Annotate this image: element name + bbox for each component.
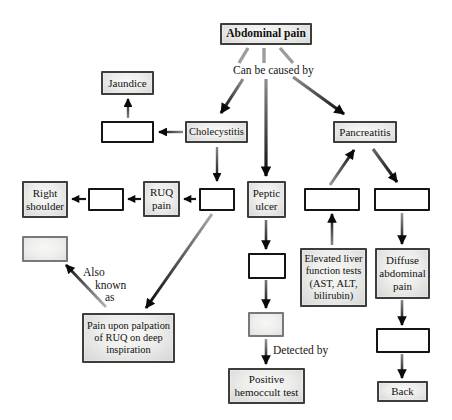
node-cholecystitis: Cholecystitis (185, 121, 248, 143)
node-elevated-liver: Elevated liver function tests (AST, ALT,… (300, 248, 367, 307)
label-also-known-as-line3: as (105, 291, 141, 304)
node-abdominal-pain: Abdominal pain (220, 23, 312, 45)
label-also-known-as-line1: Also (83, 266, 141, 279)
blank-box-pancreatitis-right (374, 188, 430, 211)
arrow-pancreatitis-down-right (373, 149, 397, 182)
node-pain-upon-palpation: Pain upon palpation of RUQ on deep inspi… (82, 313, 175, 363)
node-jaundice: Jaundice (101, 71, 154, 95)
flowchart-canvas: Abdominal pain Jaundice Cholecystitis Pa… (0, 0, 452, 420)
blank-box-below-peptic (248, 253, 286, 279)
node-ruq-pain: RUQ pain (143, 181, 180, 217)
arrow-blank-up-to-pancreatitis (330, 150, 354, 185)
arrow-blank-to-pain-palpation (146, 214, 212, 308)
blank-box-gray-left (22, 236, 68, 262)
label-can-be-caused-by: Can be caused by (233, 64, 314, 76)
node-peptic-ulcer: Peptic ulcer (247, 181, 286, 218)
node-positive-hemoccult: Positive hemoccult test (228, 368, 305, 404)
label-also-known-as: Also known as (81, 266, 141, 304)
node-diffuse-abdominal-pain: Diffuse abdominal pain (375, 248, 430, 299)
fan-abdominal-to-label (239, 48, 293, 63)
blank-box-cause-of-jaundice (101, 121, 154, 143)
blank-box-gray-middle (248, 312, 284, 337)
blank-box-under-cholecystitis (199, 188, 235, 211)
arrow-label-to-cholecystitis (221, 79, 243, 113)
node-right-shoulder: Right shoulder (22, 181, 68, 218)
arrow-label-to-pancreatitis (293, 77, 344, 114)
node-back: Back (377, 381, 428, 402)
label-also-known-as-line2: known (95, 279, 141, 292)
node-pancreatitis: Pancreatitis (333, 121, 397, 143)
blank-box-pancreatitis-left (304, 188, 360, 211)
label-detected-by: Detected by (273, 344, 328, 356)
blank-box-right-shoulder-link (88, 188, 124, 211)
blank-box-below-diffuse (376, 328, 430, 353)
